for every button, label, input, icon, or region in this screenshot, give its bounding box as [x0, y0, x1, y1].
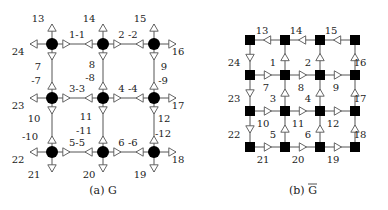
label: 9: [333, 82, 339, 93]
arrowhead-icon: [299, 71, 306, 79]
arrowhead-icon: [63, 40, 70, 48]
label: 12: [158, 113, 171, 124]
label: 2: [305, 57, 311, 68]
arrowhead-icon: [63, 94, 70, 102]
node: [46, 146, 58, 158]
arrowhead-icon: [136, 148, 143, 156]
node: [97, 146, 109, 158]
label: -11: [76, 125, 92, 136]
label: 15: [325, 25, 338, 36]
arrowhead-icon: [264, 107, 271, 115]
label: 17: [354, 93, 367, 104]
label: 4 -4: [118, 83, 137, 94]
arrowhead-icon: [30, 94, 37, 102]
label: 5: [270, 129, 276, 140]
arrowhead-icon: [85, 94, 92, 102]
label: -10: [22, 131, 38, 142]
label: 3: [270, 93, 276, 104]
label: 21: [28, 169, 41, 180]
node: [350, 70, 360, 80]
arrowhead-icon: [30, 40, 37, 48]
arrowhead-icon: [316, 125, 324, 132]
arrowhead-icon: [114, 94, 121, 102]
label: -12: [155, 128, 171, 139]
label: 19: [327, 154, 340, 165]
node: [148, 38, 160, 50]
label: 22: [228, 129, 241, 140]
label: 23: [12, 100, 25, 111]
arrowhead-icon: [114, 40, 121, 48]
arrowhead-icon: [63, 148, 70, 156]
node: [245, 35, 255, 45]
arrowhead-icon: [334, 36, 341, 44]
label: 14: [83, 13, 96, 24]
arrowhead-icon: [264, 71, 271, 79]
node: [315, 142, 325, 152]
node: [350, 142, 360, 152]
arrowhead-icon: [281, 89, 289, 96]
node: [350, 106, 360, 116]
arrowhead-icon: [150, 24, 158, 31]
label: 6: [305, 129, 311, 140]
node: [46, 38, 58, 50]
node: [315, 70, 325, 80]
arrowhead-icon: [136, 94, 143, 102]
arrowhead-icon: [150, 82, 158, 89]
arrowhead-icon: [246, 90, 254, 97]
arrowhead-icon: [99, 82, 107, 89]
arrowhead-icon: [136, 40, 143, 48]
arrowhead-icon: [150, 53, 158, 60]
label: 15: [134, 13, 147, 24]
label: 10: [257, 118, 270, 129]
label: 9: [161, 61, 167, 72]
label: 20: [292, 154, 305, 165]
node: [280, 142, 290, 152]
arrowhead-icon: [114, 148, 121, 156]
node: [280, 35, 290, 45]
label: 11: [292, 118, 305, 129]
label: 22: [12, 154, 25, 165]
label: 19: [134, 169, 147, 180]
label: 2 -2: [118, 29, 137, 40]
arrowhead-icon: [299, 36, 306, 44]
arrowhead-icon: [264, 36, 271, 44]
arrowhead-icon: [99, 53, 107, 60]
label: 16: [354, 57, 367, 68]
label: 17: [172, 100, 185, 111]
label: 7: [35, 61, 41, 72]
arrowhead-icon: [334, 71, 341, 79]
node: [350, 35, 360, 45]
arrowhead-icon: [99, 165, 107, 172]
arrowhead-icon: [99, 24, 107, 31]
arrowhead-icon: [99, 136, 107, 143]
arrowhead-icon: [316, 54, 324, 61]
label: 8: [89, 59, 95, 70]
label: 10: [28, 113, 41, 124]
label: 12: [327, 118, 340, 129]
arrowhead-icon: [334, 143, 341, 151]
label: 6 -6: [118, 137, 137, 148]
arrowhead-icon: [246, 54, 254, 61]
arrowhead-icon: [299, 107, 306, 115]
label: 7: [263, 82, 269, 93]
arrowhead-icon: [85, 40, 92, 48]
label: 4: [305, 93, 311, 104]
label: 13: [32, 13, 45, 24]
label: 21: [257, 154, 270, 165]
node: [148, 146, 160, 158]
arrowhead-icon: [48, 165, 56, 172]
label: -7: [31, 75, 41, 86]
caption-b: (b) G: [289, 184, 317, 197]
node: [315, 35, 325, 45]
node: [97, 38, 109, 50]
label: 14: [290, 25, 303, 36]
diagram-canvas: 1-12 -23-34 -45-56 -67-78-89-910-1011-11…: [0, 0, 388, 210]
arrowhead-icon: [281, 54, 289, 61]
arrowhead-icon: [48, 53, 56, 60]
node: [280, 70, 290, 80]
caption-a: (a) G: [89, 184, 116, 197]
graph-g: 1-12 -23-34 -45-56 -67-78-89-910-1011-11…: [12, 13, 185, 180]
arrowhead-icon: [85, 148, 92, 156]
label: 24: [12, 46, 25, 57]
arrowhead-icon: [48, 82, 56, 89]
